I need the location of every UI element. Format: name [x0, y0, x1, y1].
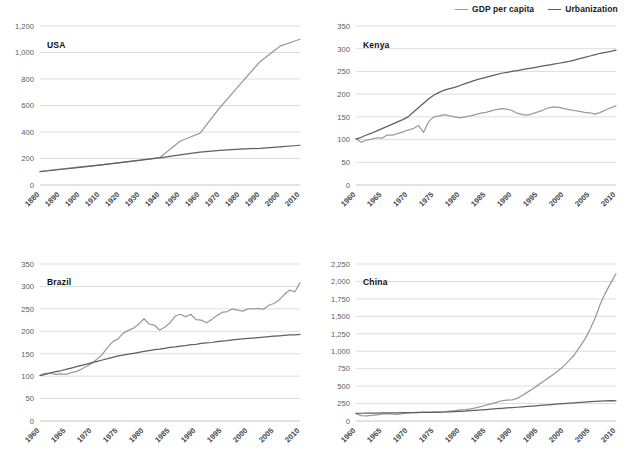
- x-axis-tick-label: 1930: [123, 190, 141, 208]
- x-axis-tick-label: 1965: [365, 190, 384, 209]
- y-axis-tick-label: 1,000: [15, 48, 34, 57]
- y-axis-tick-label: 1,250: [331, 330, 350, 339]
- y-axis-tick-label: 250: [21, 305, 34, 314]
- x-axis-tick-label: 2010: [599, 426, 617, 444]
- x-axis-tick-label: 2005: [573, 190, 592, 209]
- x-axis-tick-label: 1920: [103, 190, 121, 208]
- y-axis-tick-label: 0: [30, 417, 34, 426]
- x-axis-tick-label: 1975: [417, 190, 436, 209]
- y-axis-tick-label: 0: [346, 417, 350, 426]
- x-axis-tick-label: 1960: [183, 190, 201, 208]
- legend-swatch-gdp-per-capita: [455, 9, 468, 10]
- x-axis-tick-label: 2010: [599, 190, 617, 208]
- panel-title-kenya: Kenya: [363, 40, 390, 50]
- panel-usa: 02004006008001,0001,20018801890190019101…: [0, 12, 315, 237]
- y-axis-tick-label: 100: [21, 372, 34, 381]
- y-axis-tick-label: 1,000: [331, 347, 350, 356]
- series-line-urbanization: [356, 50, 616, 139]
- x-axis-tick-label: 1990: [243, 190, 261, 208]
- legend-swatch-urbanization: [548, 9, 561, 10]
- x-axis-tick-label: 1990: [495, 426, 513, 444]
- x-axis-tick-label: 1990: [179, 426, 197, 444]
- y-axis-tick-label: 800: [21, 75, 34, 84]
- x-axis-tick-label: 1880: [23, 190, 41, 208]
- panel-china: 02505007501,0001,2501,5001,7502,0002,250…: [316, 250, 631, 473]
- y-axis-tick-label: 50: [342, 158, 350, 167]
- multi-panel-chart-figure: GDP per capita Urbanization 020040060080…: [0, 0, 631, 473]
- x-axis-tick-label: 1990: [495, 190, 513, 208]
- series-line-urbanization: [40, 334, 300, 375]
- x-axis-tick-label: 1985: [469, 426, 488, 445]
- x-axis-tick-label: 1970: [203, 190, 221, 208]
- x-axis-tick-label: 1995: [521, 190, 540, 209]
- y-axis-tick-label: 300: [337, 45, 350, 54]
- y-axis-tick-label: 750: [337, 364, 350, 373]
- panel-kenya: 0501001502002503003501960196519701975198…: [316, 12, 631, 237]
- x-axis-tick-label: 1960: [339, 190, 357, 208]
- panel-brazil: 0501001502002503003501960196519701975198…: [0, 250, 315, 473]
- y-axis-tick-label: 2,000: [331, 277, 350, 286]
- x-axis-tick-label: 1890: [43, 190, 61, 208]
- y-axis-tick-label: 350: [337, 22, 350, 31]
- y-axis-tick-label: 150: [21, 350, 34, 359]
- y-axis-tick-label: 0: [30, 181, 34, 190]
- x-axis-tick-label: 1980: [223, 190, 241, 208]
- x-axis-tick-label: 1940: [143, 190, 161, 208]
- x-axis-tick-label: 1995: [521, 426, 540, 445]
- x-axis-tick-label: 1965: [365, 426, 384, 445]
- y-axis-tick-label: 500: [337, 382, 350, 391]
- x-axis-tick-label: 2000: [547, 190, 565, 208]
- y-axis-tick-label: 1,750: [331, 295, 350, 304]
- x-axis-tick-label: 1950: [163, 190, 181, 208]
- series-line-gdp-per-capita: [40, 283, 300, 375]
- series-line-urbanization: [356, 401, 616, 414]
- x-axis-tick-label: 1995: [205, 426, 224, 445]
- y-axis-tick-label: 100: [337, 135, 350, 144]
- x-axis-tick-label: 1975: [417, 426, 436, 445]
- y-axis-tick-label: 300: [21, 282, 34, 291]
- x-axis-tick-label: 1980: [443, 190, 461, 208]
- x-axis-tick-label: 1975: [101, 426, 120, 445]
- x-axis-tick-label: 2005: [573, 426, 592, 445]
- x-axis-tick-label: 2010: [283, 426, 301, 444]
- x-axis-tick-label: 1960: [23, 426, 41, 444]
- y-axis-tick-label: 1,500: [331, 312, 350, 321]
- panel-title-china: China: [363, 277, 388, 287]
- x-axis-tick-label: 2005: [257, 426, 276, 445]
- x-axis-tick-label: 1980: [443, 426, 461, 444]
- y-axis-tick-label: 2,250: [331, 260, 350, 269]
- series-line-gdp-per-capita: [356, 274, 616, 416]
- y-axis-tick-label: 250: [337, 399, 350, 408]
- x-axis-tick-label: 1985: [469, 190, 488, 209]
- x-axis-tick-label: 2000: [231, 426, 249, 444]
- y-axis-tick-label: 1,200: [15, 22, 34, 31]
- x-axis-tick-label: 1970: [391, 190, 409, 208]
- x-axis-tick-label: 1985: [153, 426, 172, 445]
- x-axis-tick-label: 1980: [127, 426, 145, 444]
- x-axis-tick-label: 1970: [391, 426, 409, 444]
- y-axis-tick-label: 200: [21, 154, 34, 163]
- x-axis-tick-label: 1960: [339, 426, 357, 444]
- series-line-gdp-per-capita: [356, 106, 616, 142]
- x-axis-tick-label: 2010: [283, 190, 301, 208]
- y-axis-tick-label: 0: [346, 181, 350, 190]
- x-axis-tick-label: 1970: [75, 426, 93, 444]
- x-axis-tick-label: 1965: [49, 426, 68, 445]
- y-axis-tick-label: 200: [337, 90, 350, 99]
- y-axis-tick-label: 250: [337, 67, 350, 76]
- y-axis-tick-label: 600: [21, 101, 34, 110]
- panel-title-usa: USA: [47, 40, 66, 50]
- x-axis-tick-label: 1900: [63, 190, 81, 208]
- panel-title-brazil: Brazil: [47, 277, 71, 287]
- x-axis-tick-label: 2000: [263, 190, 281, 208]
- y-axis-tick-label: 350: [21, 260, 34, 269]
- x-axis-tick-label: 2000: [547, 426, 565, 444]
- y-axis-tick-label: 200: [21, 327, 34, 336]
- x-axis-tick-label: 1910: [83, 190, 101, 208]
- y-axis-tick-label: 150: [337, 113, 350, 122]
- y-axis-tick-label: 50: [26, 394, 34, 403]
- y-axis-tick-label: 400: [21, 128, 34, 137]
